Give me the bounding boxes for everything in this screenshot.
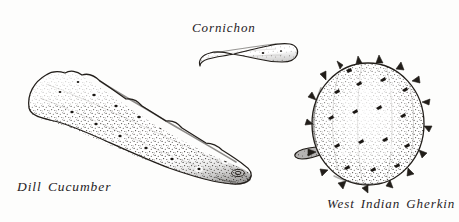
specimen-label-dill-cucumber: Dill Cucumber bbox=[17, 180, 111, 194]
specimen-label-cornichon: Cornichon bbox=[192, 21, 256, 34]
illustration-plate: Dill Cucumber Cornichon West Indian Gher… bbox=[0, 0, 459, 222]
specimen-label-west-indian-gherkin: West Indian Gherkin bbox=[327, 197, 455, 210]
